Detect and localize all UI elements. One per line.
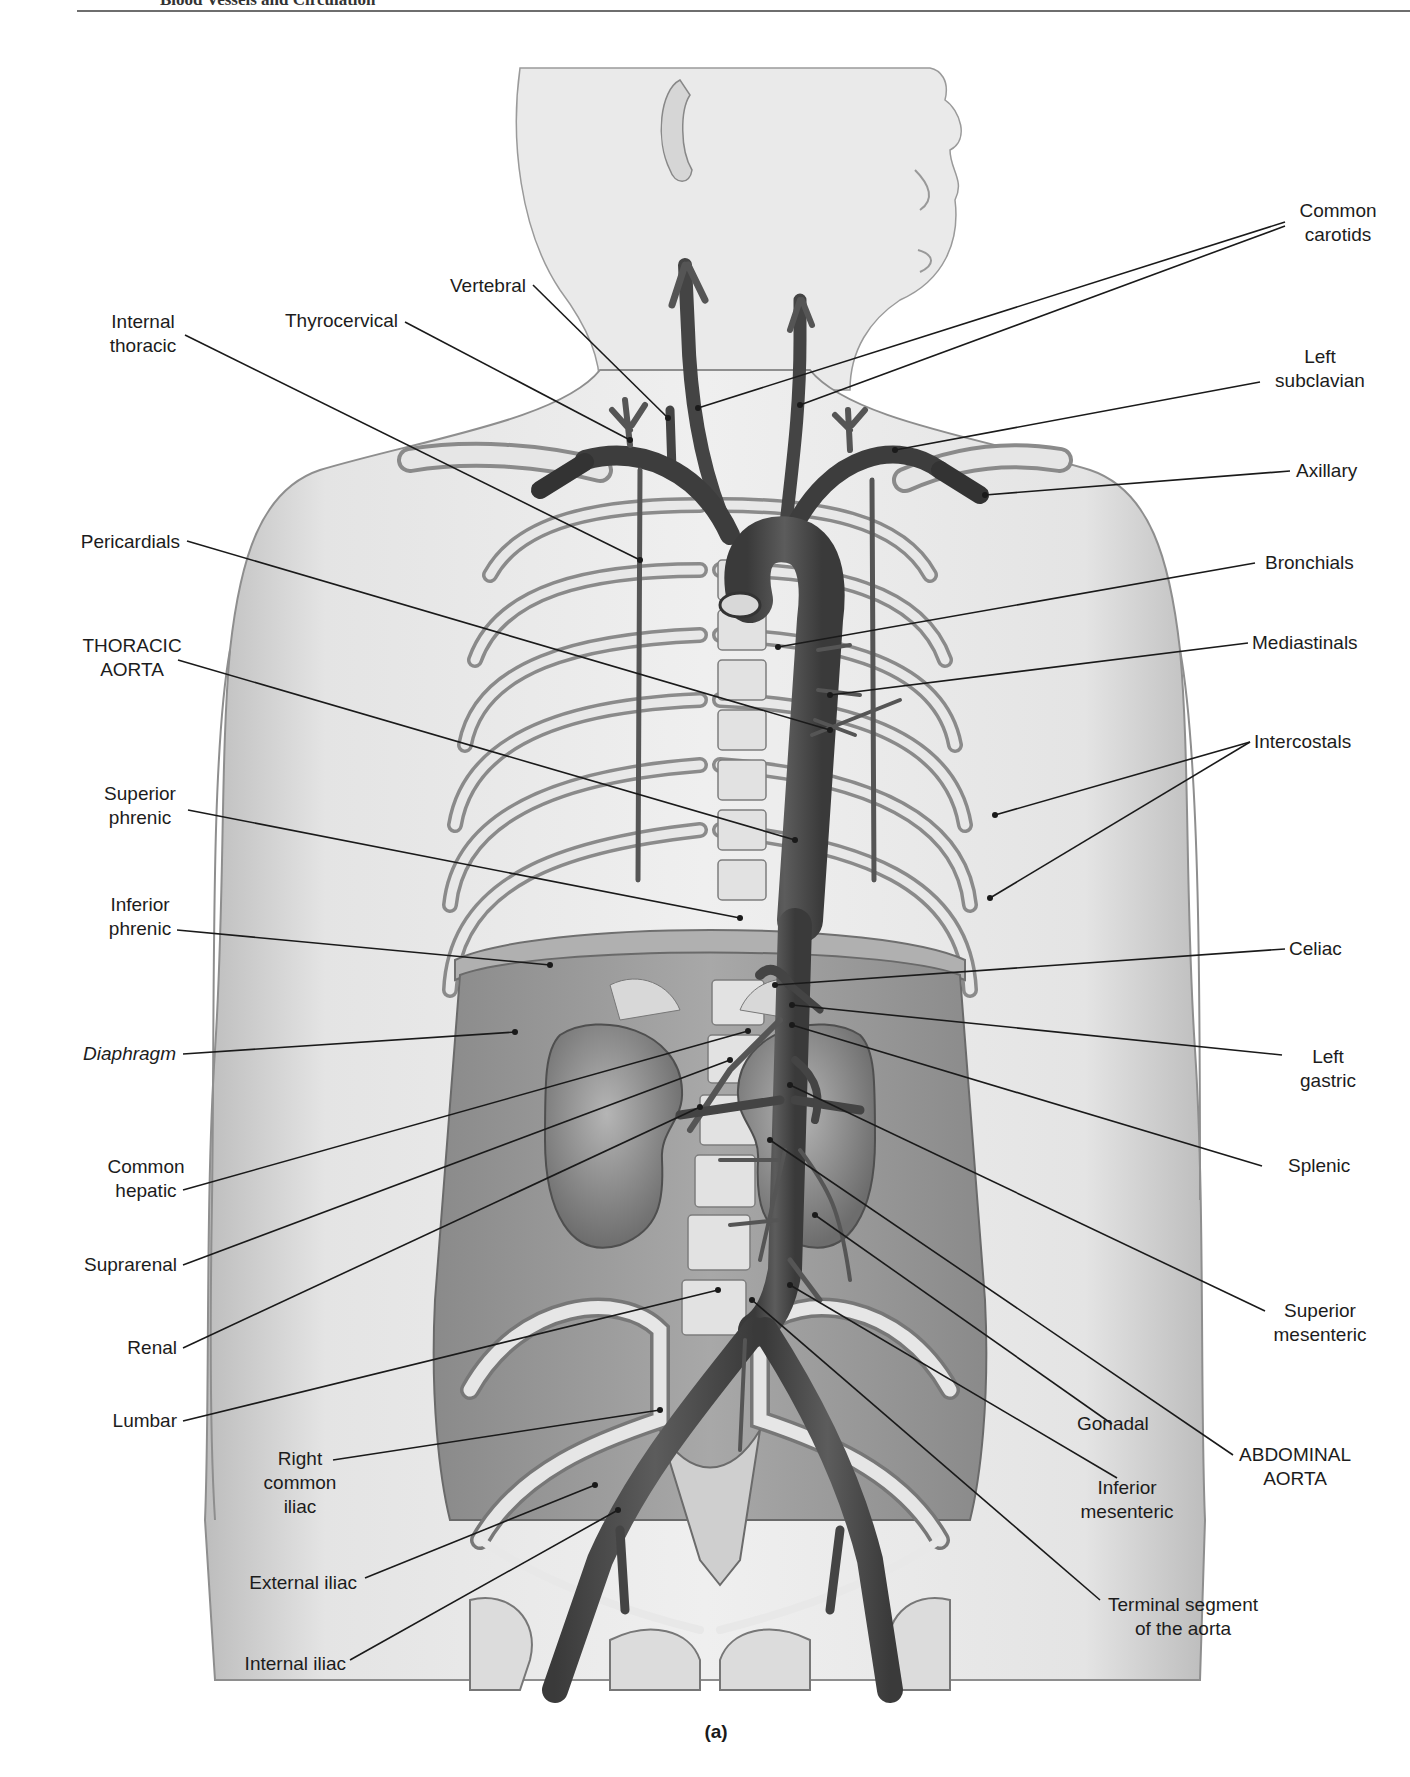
label-line: thoracic — [110, 334, 177, 358]
label-line: phrenic — [104, 806, 176, 830]
left-internal-thoracic — [872, 480, 874, 880]
label-line: Superior — [1274, 1299, 1367, 1323]
label-line: common — [264, 1471, 337, 1495]
label-splenic: Splenic — [1288, 1154, 1350, 1178]
label-gonadal: Gonadal — [1077, 1412, 1149, 1436]
label-inferior-phrenic: Inferior phrenic — [109, 893, 171, 941]
label-line: phrenic — [109, 917, 171, 941]
head-silhouette — [516, 68, 961, 390]
label-axillary: Axillary — [1296, 459, 1357, 483]
label-line: AORTA — [82, 658, 181, 682]
label-internal-thoracic: Internal thoracic — [110, 310, 177, 358]
label-bronchials: Bronchials — [1265, 551, 1354, 575]
label-common-carotids: Common carotids — [1299, 199, 1376, 247]
label-renal: Renal — [127, 1336, 177, 1360]
label-line: mesenteric — [1274, 1323, 1367, 1347]
label-pericardials: Pericardials — [81, 530, 180, 554]
label-vertebral: Vertebral — [450, 274, 526, 298]
label-intercostals: Intercostals — [1254, 730, 1351, 754]
right-internal-thoracic — [638, 470, 640, 880]
label-diaphragm: Diaphragm — [83, 1042, 176, 1066]
label-superior-mesenteric: Superior mesenteric — [1274, 1299, 1367, 1347]
label-superior-phrenic: Superior phrenic — [104, 782, 176, 830]
label-right-common-iliac: Right common iliac — [264, 1447, 337, 1519]
label-line: Common — [107, 1155, 184, 1179]
label-line: AORTA — [1239, 1467, 1351, 1491]
label-line: iliac — [264, 1495, 337, 1519]
label-line: Inferior — [109, 893, 171, 917]
label-internal-iliac: Internal iliac — [245, 1652, 346, 1676]
label-terminal-segment: Terminal segment of the aorta — [1108, 1593, 1258, 1641]
label-thyrocervical: Thyrocervical — [285, 309, 398, 333]
label-common-hepatic: Common hepatic — [107, 1155, 184, 1203]
label-left-gastric: Left gastric — [1300, 1045, 1356, 1093]
label-inferior-mesenteric: Inferior mesenteric — [1081, 1476, 1174, 1524]
label-line: carotids — [1299, 223, 1376, 247]
anatomy-illustration — [0, 0, 1410, 1777]
label-abdominal-aorta: ABDOMINAL AORTA — [1239, 1443, 1351, 1491]
right-internal-iliac — [620, 1530, 625, 1610]
label-line: Left — [1300, 1045, 1356, 1069]
label-line: Right — [264, 1447, 337, 1471]
label-left-subclavian: Left subclavian — [1275, 345, 1365, 393]
label-line: THORACIC — [82, 634, 181, 658]
label-suprarenal: Suprarenal — [84, 1253, 177, 1277]
label-line: Internal — [110, 310, 177, 334]
label-thoracic-aorta: THORACIC AORTA — [82, 634, 181, 682]
label-line: ABDOMINAL — [1239, 1443, 1351, 1467]
label-line: subclavian — [1275, 369, 1365, 393]
ascending-aorta-cut — [720, 593, 760, 617]
label-celiac: Celiac — [1289, 937, 1342, 961]
label-mediastinals: Mediastinals — [1252, 631, 1358, 655]
label-lumbar: Lumbar — [113, 1409, 177, 1433]
label-line: hepatic — [107, 1179, 184, 1203]
label-line: Common — [1299, 199, 1376, 223]
label-line: gastric — [1300, 1069, 1356, 1093]
label-line: mesenteric — [1081, 1500, 1174, 1524]
label-line: Inferior — [1081, 1476, 1174, 1500]
label-line: Terminal segment — [1108, 1593, 1258, 1617]
label-line: Left — [1275, 345, 1365, 369]
figure-caption: (a) — [704, 1721, 727, 1743]
label-external-iliac: External iliac — [249, 1571, 357, 1595]
label-line: Superior — [104, 782, 176, 806]
label-line: of the aorta — [1108, 1617, 1258, 1641]
